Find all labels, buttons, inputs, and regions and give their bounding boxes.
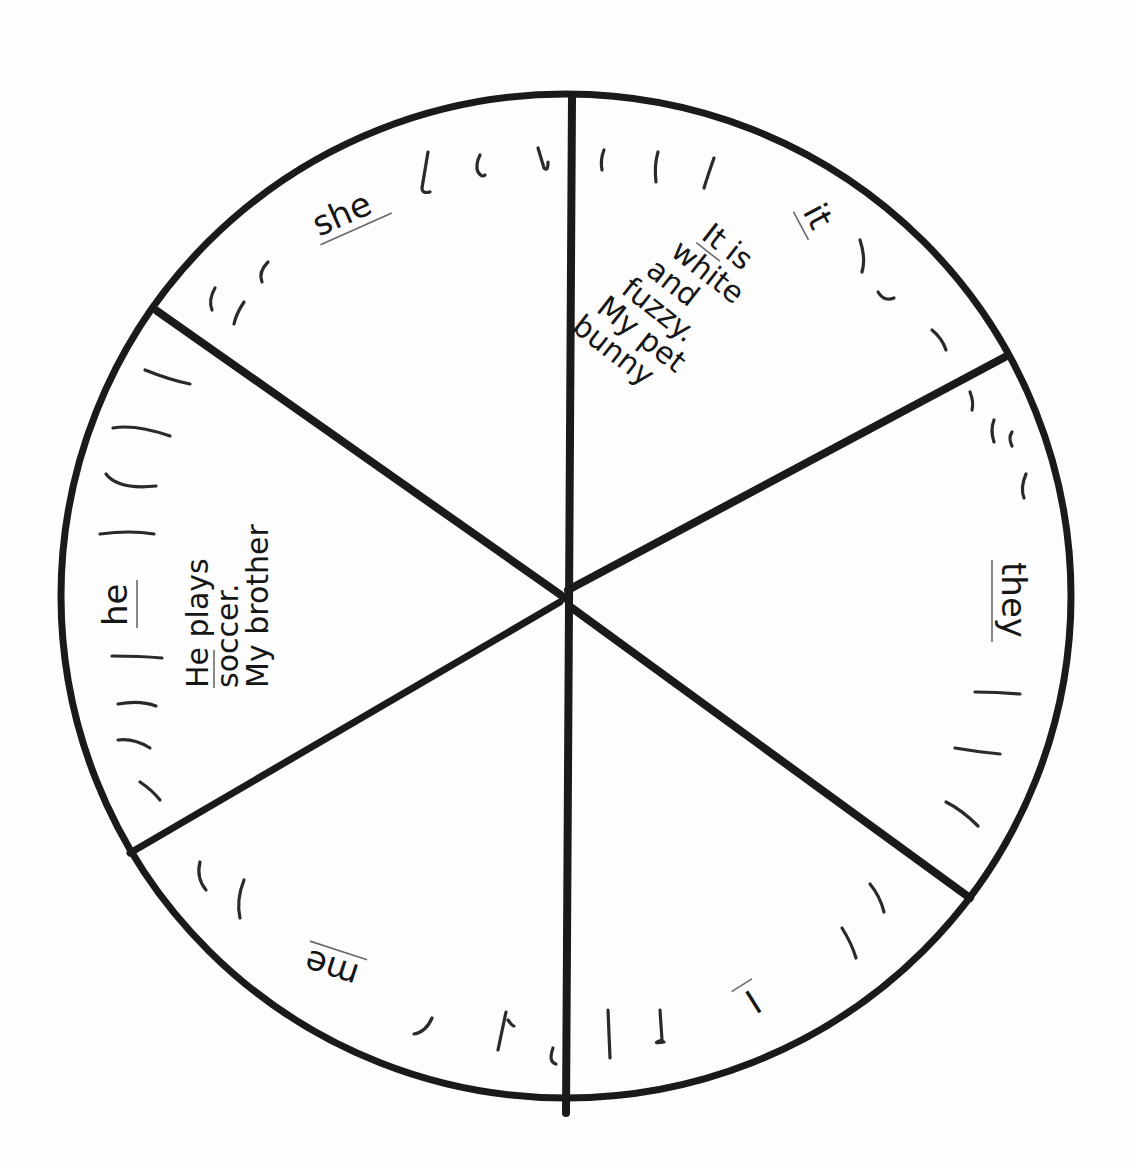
spoke-bottom-right (572, 608, 970, 898)
spoke-top-right (568, 357, 1005, 590)
tally-mark (239, 880, 244, 918)
tally-mark (992, 420, 994, 442)
tally-mark (414, 1018, 432, 1034)
label-me-text: me (299, 942, 363, 997)
tally-mark (118, 702, 156, 706)
tally-mark (704, 158, 714, 188)
tally-mark (422, 152, 430, 193)
label-it: it (793, 193, 843, 240)
tally-mark (601, 150, 604, 170)
tally-mark (870, 884, 884, 912)
tally-mark (860, 240, 864, 272)
tally-mark (842, 928, 856, 958)
tally-mark (970, 392, 973, 410)
worksheet-page: she it they I me he It is (0, 0, 1130, 1167)
tally-mark (538, 148, 548, 169)
tally-mark (946, 802, 978, 826)
tally-mark (498, 1012, 514, 1050)
tally-mark (878, 292, 894, 299)
label-he: he (95, 580, 137, 628)
tally-mark (113, 427, 170, 436)
tally-mark (261, 262, 268, 282)
tally-mark (234, 302, 244, 324)
label-they-text: they (994, 562, 1034, 638)
tally-mark (100, 532, 154, 534)
label-they: they (992, 560, 1034, 642)
tally-mark (106, 474, 156, 487)
tally-mark (975, 692, 1020, 694)
label-me: me (298, 941, 367, 998)
tally-mark (145, 370, 190, 384)
tally-mark (199, 862, 206, 890)
tally-mark (551, 1048, 556, 1064)
label-I-text: I (738, 982, 768, 1021)
tally-mark (1010, 432, 1012, 446)
tally-mark (112, 656, 162, 658)
label-I: I (732, 979, 774, 1026)
tally-mark (656, 1010, 664, 1043)
tally-mark (140, 782, 160, 800)
sentence-he-line3: My brother (240, 524, 275, 688)
label-he-text: he (95, 584, 135, 626)
tally-mark (1022, 474, 1026, 498)
tally-mark (955, 748, 1000, 754)
tally-mark (211, 288, 215, 310)
sentence-it: It is white and fuzzy. My pet bunny (566, 188, 771, 406)
tally-mark (477, 155, 485, 176)
pronoun-wheel: she it they I me he It is (0, 0, 1130, 1167)
tally-mark (118, 740, 150, 748)
tally-mark (608, 1010, 610, 1058)
tally-mark (932, 330, 946, 350)
spoke-top-left (157, 311, 568, 600)
sentence-he: He plays soccer. My brother (180, 524, 275, 688)
label-she: she (304, 176, 392, 244)
tally-mark (655, 152, 658, 182)
